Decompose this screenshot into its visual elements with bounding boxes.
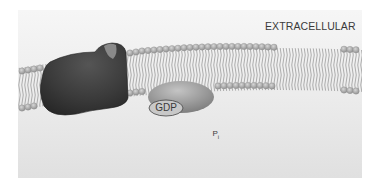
extracellular-label: EXTRACELLULAR — [265, 20, 356, 32]
phosphate-subscript: i — [218, 133, 219, 139]
phosphate-label: Pi — [213, 129, 220, 140]
gdp-label: GDP — [149, 100, 183, 116]
